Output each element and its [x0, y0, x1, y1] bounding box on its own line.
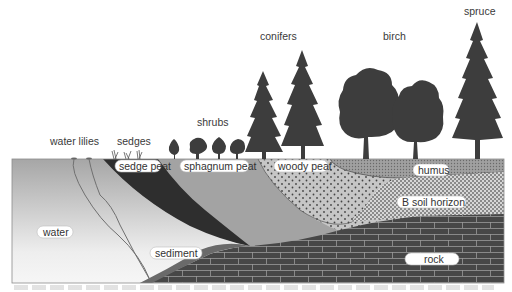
svg-text:sediment: sediment [155, 247, 198, 259]
spruce-tree-icon [452, 22, 503, 159]
conifer-tree-icon [281, 50, 324, 159]
label-birch: birch [383, 30, 406, 42]
svg-text:sedge peat: sedge peat [119, 160, 171, 172]
water-lily-icon [71, 158, 77, 160]
tag-humus: humus [413, 164, 450, 176]
tag-rock: rock [405, 253, 459, 265]
tag-water: water [37, 226, 73, 238]
shrubs-icon [169, 137, 245, 159]
svg-text:B soil horizon: B soil horizon [402, 196, 465, 208]
conifer-tree-icon [245, 71, 283, 159]
label-shrubs: shrubs [197, 116, 229, 128]
label-water-lilies: water lilies [49, 135, 99, 147]
tag-b-soil-horizon: B soil horizon [397, 196, 466, 208]
svg-text:humus: humus [418, 164, 450, 176]
svg-text:water: water [42, 226, 69, 238]
birch-tree-icon [339, 68, 401, 159]
label-spruce: spruce [464, 5, 496, 17]
label-sedges: sedges [117, 135, 151, 147]
caption-strip-cropped [14, 285, 494, 290]
svg-text:rock: rock [424, 253, 445, 265]
svg-text:woody peat: woody peat [277, 160, 332, 172]
sedges-icon [112, 150, 142, 159]
svg-text:sphagnum peat: sphagnum peat [184, 160, 256, 172]
tag-sediment: sediment [150, 247, 202, 259]
tag-sedge-peat: sedge peat [115, 160, 171, 172]
water-lily-icon [86, 158, 92, 160]
tag-sphagnum-peat: sphagnum peat [180, 160, 256, 172]
peatland-succession-diagram: water lilies sedges shrubs conifers birc… [0, 0, 512, 292]
tag-woody-peat: woody peat [274, 160, 332, 172]
label-conifers: conifers [260, 30, 297, 42]
birch-tree-icon [393, 80, 444, 159]
